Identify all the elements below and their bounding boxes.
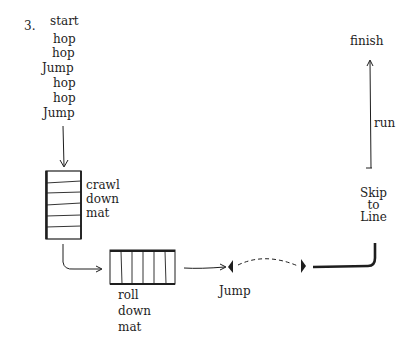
run-arrow	[366, 60, 373, 168]
sequence-hop-1: hop	[53, 34, 76, 45]
arrow-to-crawl-mat	[60, 126, 68, 167]
crawl-mat	[46, 171, 81, 239]
start-label: start	[50, 16, 79, 27]
path-to-skip	[313, 243, 375, 267]
arrow-to-roll-mat	[63, 244, 102, 272]
run-label: run	[374, 118, 395, 129]
arrow-to-jump	[184, 264, 226, 270]
sequence-hop-2: hop	[52, 48, 75, 59]
sequence-hop-4: hop	[53, 93, 76, 104]
jump-label: Jump	[219, 286, 251, 297]
crawl-mat-label: crawl down mat	[86, 180, 120, 219]
skip-to-line-label: Skip to Line	[360, 188, 387, 223]
sequence-jump-1: Jump	[42, 63, 74, 74]
step-number: 3.	[24, 21, 35, 32]
roll-mat	[110, 250, 175, 284]
roll-mat-label: roll down mat	[118, 290, 151, 333]
finish-label: finish	[350, 36, 383, 47]
sequence-jump-2: Jump	[43, 108, 75, 119]
obstacle-course-diagram: 3. start hop hop Jump hop hop Jump crawl…	[0, 0, 417, 354]
sequence-hop-3: hop	[53, 78, 76, 89]
jump-markers	[228, 259, 306, 273]
